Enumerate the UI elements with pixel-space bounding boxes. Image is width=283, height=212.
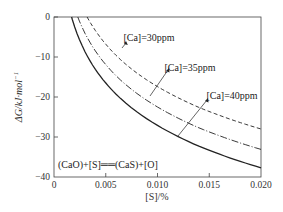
- y-axis-title: ΔG/kJ·mol−1: [12, 72, 24, 123]
- annotation-pointers: [122, 41, 209, 136]
- reaction-equation: (CaO)+[S]══(CaS)+[O]: [58, 159, 158, 171]
- annotation-40ppm: [Ca]=40ppm: [206, 90, 257, 101]
- svg-text:ΔG/kJ·mol−1: ΔG/kJ·mol−1: [12, 72, 24, 123]
- y-axis: 0 −10 −20 −30 −40: [35, 12, 58, 182]
- y-tick-label: −30: [35, 132, 50, 142]
- y-tick-label: −10: [35, 52, 50, 62]
- y-axis-title-text: ΔG/kJ·mol: [13, 80, 24, 123]
- annotation-30ppm: [Ca]=30ppm: [123, 32, 174, 43]
- y-tick-label: −20: [35, 92, 50, 102]
- x-tick-label: 0: [52, 180, 57, 190]
- chart: 0 −10 −20 −30 −40 0 0.005 0.010 0.015 0.…: [0, 0, 283, 212]
- x-tick-label: 0.020: [250, 180, 272, 190]
- x-axis: 0 0.005 0.010 0.015 0.020: [52, 173, 272, 190]
- annotation-35ppm: [Ca]=35ppm: [164, 62, 215, 73]
- y-tick-label: −40: [35, 172, 50, 182]
- x-tick-label: 0.015: [199, 180, 221, 190]
- y-axis-title-sup: −1: [12, 72, 20, 80]
- x-axis-title: [S]/%: [145, 191, 168, 202]
- x-tick-label: 0.010: [147, 180, 169, 190]
- x-tick-label: 0.005: [95, 180, 117, 190]
- y-tick-label: 0: [45, 12, 50, 22]
